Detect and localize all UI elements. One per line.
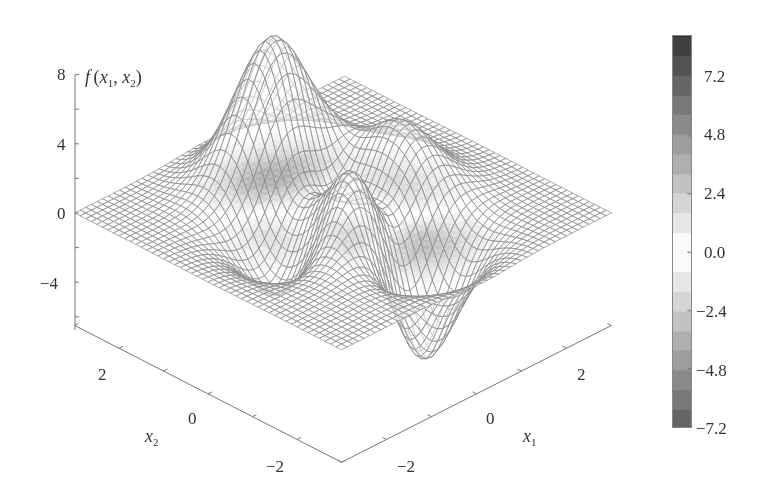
colorbar-tick-neg7.2: −7.2 [696,420,727,437]
x2-tick-neg2: −2 [266,458,284,475]
x1-axis-label: x1 [523,427,537,448]
z-axis-label: f (x1, x2) [85,68,142,89]
z-tick-4: 4 [57,136,66,153]
x1-tick-2: 2 [577,366,586,383]
colorbar-tick-0.0: 0.0 [704,244,725,261]
colorbar-tick-neg4.8: −4.8 [696,362,727,379]
x1-tick-neg2: −2 [397,458,415,475]
colorbar-tick-2.4: 2.4 [704,185,725,202]
x2-tick-0: 0 [188,410,197,427]
colorbar-tick-neg2.4: −2.4 [696,303,727,320]
z-tick-8: 8 [57,66,66,83]
colorbar [672,35,692,428]
colorbar-tick-7.2: 7.2 [704,68,725,85]
z-label-open: ( [90,67,100,87]
x2-tick-2: 2 [98,366,107,383]
colorbar-tick-4.8: 4.8 [704,126,725,143]
x2-axis-label: x2 [145,427,159,448]
x1-tick-0: 0 [486,410,495,427]
z-tick-0: 0 [57,205,66,222]
z-tick-neg4: −4 [40,275,58,292]
